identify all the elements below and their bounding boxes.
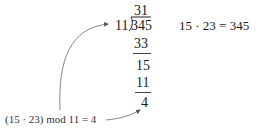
arrow-to-divisor bbox=[60, 24, 108, 110]
quotient: 31 bbox=[134, 4, 148, 18]
remainder: 4 bbox=[141, 96, 148, 110]
product-equation: 15 · 23 = 345 bbox=[179, 19, 249, 32]
subtract-33: 33 bbox=[134, 37, 148, 51]
underline-1 bbox=[133, 53, 151, 54]
arrow-to-remainder bbox=[106, 110, 140, 120]
mod-annotation: (15 · 23) mod 11 = 4 bbox=[5, 114, 96, 125]
dividend: 345 bbox=[131, 19, 152, 33]
divisor: 11 bbox=[115, 19, 128, 33]
underline-2 bbox=[135, 92, 151, 93]
partial-remainder: 15 bbox=[136, 59, 150, 73]
subtract-11: 11 bbox=[136, 76, 149, 90]
